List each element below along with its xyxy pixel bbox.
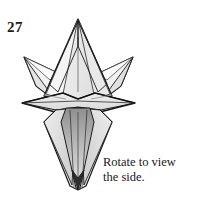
origami-step-figure-page: 27 (0, 0, 206, 206)
caption-line-2: the side. (103, 170, 203, 185)
instruction-caption: Rotate to view the side. (103, 155, 203, 185)
caption-line-1: Rotate to view (103, 155, 203, 170)
